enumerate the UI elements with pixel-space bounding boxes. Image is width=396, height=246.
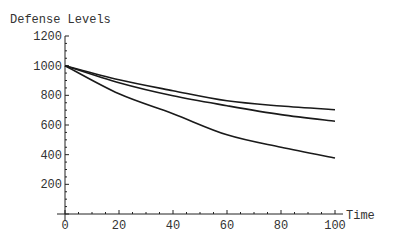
y-tick-label: 400 xyxy=(40,149,62,163)
x-tick-label: 80 xyxy=(274,219,288,233)
series-line-curve-2 xyxy=(65,66,335,122)
plot-lines xyxy=(65,66,335,158)
y-axis-label: Defense Levels xyxy=(10,13,111,27)
line-chart: 02040608010020040060080010001200 Defense… xyxy=(0,0,396,246)
x-tick-label: 20 xyxy=(112,219,126,233)
y-tick-label: 1200 xyxy=(33,30,62,44)
x-tick-label: 40 xyxy=(166,219,180,233)
axes: 02040608010020040060080010001200 xyxy=(33,30,346,233)
x-tick-label: 60 xyxy=(220,219,234,233)
y-tick-label: 1000 xyxy=(33,60,62,74)
y-tick-label: 200 xyxy=(40,178,62,192)
y-tick-label: 600 xyxy=(40,119,62,133)
x-tick-label: 0 xyxy=(61,219,68,233)
x-axis-label: Time xyxy=(346,209,375,223)
x-tick-label: 100 xyxy=(324,219,346,233)
y-tick-label: 800 xyxy=(40,89,62,103)
